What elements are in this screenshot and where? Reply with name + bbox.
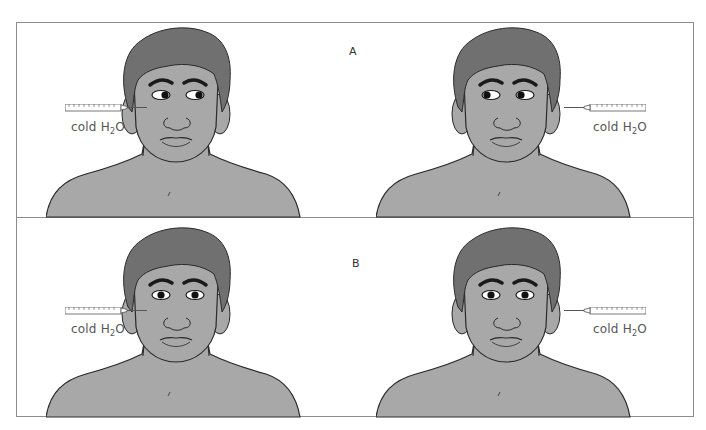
syringe-label-a-left: cold H2O	[71, 120, 125, 136]
panel-label-b: B	[352, 257, 360, 270]
syringe-b-left	[65, 307, 151, 315]
syringe-a-right	[560, 104, 646, 112]
figure-b-right	[376, 222, 636, 418]
syringe-a-left	[65, 104, 151, 112]
syringe-label-b-left: cold H2O	[71, 322, 125, 338]
figure-b-left	[46, 222, 306, 418]
syringe-label-a-right: cold H2O	[593, 120, 647, 136]
pupil-icon	[161, 91, 168, 98]
panel-label-a: A	[349, 45, 357, 58]
syringe-label-b-right: cold H2O	[593, 322, 647, 338]
syringe-b-right	[560, 307, 646, 315]
